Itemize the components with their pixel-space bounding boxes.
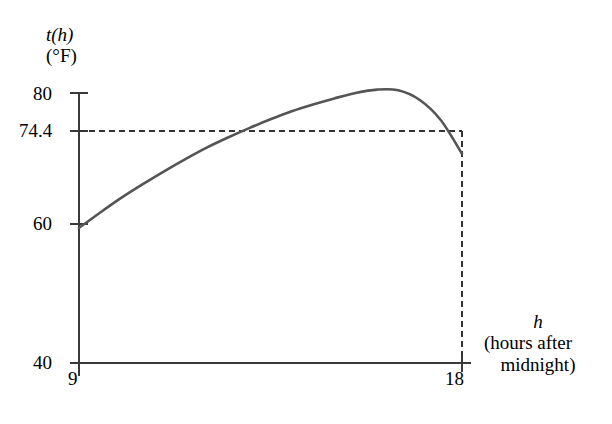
y-axis-title-line2: (°F) bbox=[46, 45, 77, 66]
y-axis-title: t(h) (°F) bbox=[46, 24, 77, 67]
x-axis-symbol: h bbox=[484, 311, 592, 332]
y-axis-title-line1: t(h) bbox=[46, 24, 77, 45]
chart-figure: t(h) (°F) h (hours after midnight) 80 74… bbox=[0, 0, 612, 424]
x-tick-label-18: 18 bbox=[445, 368, 464, 389]
y-tick-label-74-4: 74.4 bbox=[19, 120, 52, 141]
x-axis-title-line2: midnight) bbox=[484, 354, 592, 375]
x-axis-title: h (hours after midnight) bbox=[484, 311, 592, 375]
y-tick-label-40: 40 bbox=[33, 352, 52, 373]
y-tick-label-60: 60 bbox=[33, 213, 52, 234]
temperature-curve bbox=[79, 89, 462, 228]
x-tick-label-9: 9 bbox=[68, 368, 78, 389]
y-tick-label-80: 80 bbox=[33, 83, 52, 104]
x-axis-title-line1: (hours after bbox=[484, 332, 592, 353]
